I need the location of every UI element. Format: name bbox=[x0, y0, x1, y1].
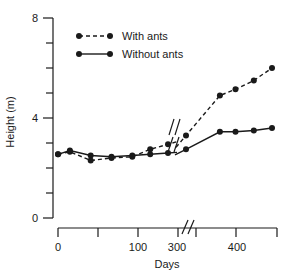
legend-marker-right-without bbox=[107, 51, 113, 57]
data-point bbox=[217, 93, 223, 99]
x-axis-break-icon bbox=[182, 220, 194, 234]
legend-marker-left-without bbox=[76, 51, 82, 57]
legend-marker-left-with bbox=[76, 33, 82, 39]
x-tick-label-0: 0 bbox=[55, 241, 61, 253]
legend-item-with-ants[interactable]: With ants bbox=[76, 30, 168, 42]
series-with-ants-line-right bbox=[176, 68, 272, 147]
data-point bbox=[233, 129, 239, 135]
data-point bbox=[269, 125, 275, 131]
data-point bbox=[129, 154, 135, 160]
legend-label-with-ants: With ants bbox=[122, 30, 168, 42]
series-with-ants bbox=[55, 65, 275, 164]
data-point bbox=[183, 146, 189, 152]
series-without-ants-line-left bbox=[58, 151, 177, 157]
line-chart: 8 4 0 Height (m) 0 100 300 bbox=[0, 0, 294, 273]
data-point bbox=[251, 78, 257, 84]
data-point bbox=[217, 129, 223, 135]
chart-legend: With ants Without ants bbox=[76, 30, 184, 60]
series-without-ants-line-right bbox=[175, 128, 272, 155]
y-axis-title: Height (m) bbox=[4, 96, 16, 147]
x-axis: 0 100 300 400 Days bbox=[55, 220, 277, 270]
data-point bbox=[147, 146, 153, 152]
y-tick-label-4: 4 bbox=[32, 112, 38, 124]
series-without-ants bbox=[55, 125, 275, 160]
x-tick-label-100: 100 bbox=[129, 241, 147, 253]
y-tick-label-8: 8 bbox=[32, 12, 38, 24]
data-point bbox=[269, 65, 275, 71]
data-point bbox=[67, 149, 73, 155]
chart-container: 8 4 0 Height (m) 0 100 300 bbox=[0, 0, 294, 273]
data-point bbox=[109, 155, 115, 161]
data-point bbox=[251, 128, 257, 134]
data-point bbox=[55, 151, 61, 157]
y-tick-label-0: 0 bbox=[32, 212, 38, 224]
x-tick-label-300: 300 bbox=[168, 241, 186, 253]
data-point bbox=[233, 86, 239, 92]
x-tick-label-400: 400 bbox=[228, 241, 246, 253]
series-break-icon-with-ants bbox=[169, 119, 180, 135]
series-with-ants-markers bbox=[55, 65, 275, 164]
series-with-ants-line-left bbox=[58, 141, 178, 160]
legend-marker-right-with bbox=[107, 33, 113, 39]
data-point bbox=[88, 158, 94, 164]
data-point bbox=[183, 133, 189, 139]
x-axis-title: Days bbox=[154, 258, 180, 270]
data-point bbox=[165, 141, 171, 147]
y-axis: 8 4 0 Height (m) bbox=[4, 12, 53, 224]
series-without-ants-markers bbox=[55, 125, 275, 160]
legend-label-without-ants: Without ants bbox=[122, 48, 184, 60]
legend-item-without-ants[interactable]: Without ants bbox=[76, 48, 184, 60]
